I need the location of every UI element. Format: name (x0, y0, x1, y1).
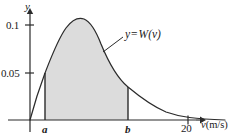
y-axis-tick-label-0.1: 0.1 (6, 20, 19, 31)
shaded-area-region (45, 18, 128, 120)
curve-equation-label: y=W(v) (125, 29, 161, 41)
curve-equation-rhs: W(v) (139, 28, 161, 40)
x-axis-bound-label-b: b (125, 124, 131, 135)
figure-container: 0.1 0.05 y a b 20 v(m/s) y=W(v) (0, 0, 242, 140)
curve-equation-operator: = (130, 28, 139, 40)
x-axis-bound-label-a: a (42, 124, 48, 135)
curve-label-leader-line (103, 37, 123, 52)
x-axis-label: v(m/s) (201, 120, 228, 131)
x-axis-tick-label-20: 20 (181, 123, 192, 134)
y-axis-label: y (25, 1, 30, 12)
y-axis-tick-label-0.05: 0.05 (1, 68, 19, 79)
x-axis-label-units: (m/s) (206, 119, 228, 130)
